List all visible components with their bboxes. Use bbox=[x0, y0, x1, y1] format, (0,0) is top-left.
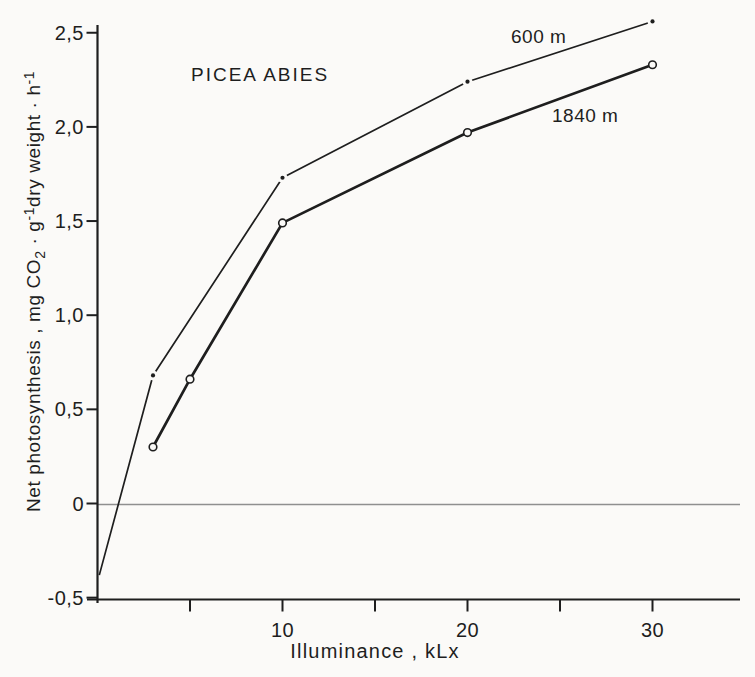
y-tick-label: -0,5 bbox=[48, 587, 84, 609]
x-tick-label: 20 bbox=[456, 619, 479, 641]
marker-dot bbox=[650, 19, 654, 23]
marker-open-circle bbox=[149, 443, 157, 451]
marker-dot bbox=[280, 176, 284, 180]
marker-open-circle bbox=[279, 219, 287, 227]
x-axis-label: Illuminance , kLx bbox=[290, 640, 459, 662]
y-tick-label: 1,0 bbox=[55, 304, 84, 326]
photosynthesis-chart: 2,52,01,51,00,50-0,5102030 PICEA ABIES 6… bbox=[0, 0, 755, 677]
y-tick-label: 0 bbox=[72, 493, 84, 515]
y-axis-label-part: · g bbox=[23, 221, 44, 251]
x-tick-label: 30 bbox=[641, 619, 664, 641]
marker-dot bbox=[151, 373, 155, 377]
series-layer bbox=[99, 16, 657, 575]
figure-page: 2,52,01,51,00,50-0,5102030 PICEA ABIES 6… bbox=[0, 0, 755, 677]
marker-dot bbox=[465, 80, 469, 84]
y-tick-label: 2,5 bbox=[55, 22, 84, 44]
axes-layer: 2,52,01,51,00,50-0,5102030 bbox=[48, 22, 740, 641]
y-axis-label-part: dry weight · h bbox=[23, 84, 44, 206]
y-tick-label: 0,5 bbox=[55, 398, 84, 420]
x-tick-label: 10 bbox=[271, 619, 294, 641]
y-axis-label-part: 2 bbox=[32, 250, 48, 258]
y-tick-label: 2,0 bbox=[55, 116, 84, 138]
y-axis-label-part: -1 bbox=[21, 71, 37, 85]
series-label-600m: 600 m bbox=[511, 26, 566, 47]
y-tick-label: 1,5 bbox=[55, 210, 84, 232]
chart-title: PICEA ABIES bbox=[191, 64, 329, 85]
y-axis-label-part: -1 bbox=[21, 207, 37, 221]
y-axis-label-part: Net photosynthesis , mg CO bbox=[23, 259, 44, 512]
marker-open-circle bbox=[464, 129, 472, 137]
marker-open-circle bbox=[649, 61, 657, 69]
y-axis-label: Net photosynthesis , mg CO2 · g-1dry wei… bbox=[21, 71, 48, 512]
marker-open-circle bbox=[186, 375, 194, 383]
series-label-1840m: 1840 m bbox=[552, 105, 618, 126]
